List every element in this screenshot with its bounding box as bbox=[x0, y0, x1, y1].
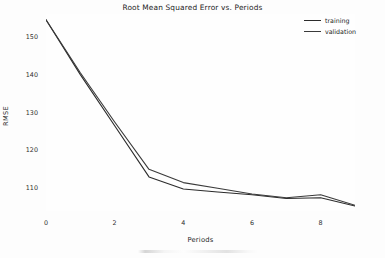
x-tick-6: 6 bbox=[250, 219, 254, 227]
legend-label-validation: validation bbox=[325, 26, 356, 37]
series-layer bbox=[46, 20, 355, 206]
legend-line-swatch-validation bbox=[304, 31, 321, 32]
x-axis-label: Periods bbox=[46, 236, 355, 244]
chart-figure: Root Mean Squared Error vs. Periods RMSE… bbox=[0, 0, 385, 258]
line-chart-svg bbox=[46, 14, 355, 211]
legend-entry-training: training bbox=[303, 15, 381, 26]
series-line-training bbox=[46, 20, 355, 206]
legend-label-training: training bbox=[325, 15, 349, 26]
x-tick-2: 2 bbox=[113, 219, 117, 227]
series-line-validation bbox=[46, 20, 355, 206]
chart-legend: training validation bbox=[303, 15, 381, 40]
legend-line-swatch-training bbox=[304, 20, 321, 21]
x-tick-8: 8 bbox=[319, 219, 323, 227]
legend-entry-validation: validation bbox=[303, 26, 381, 37]
scan-artifact bbox=[138, 250, 258, 253]
x-tick-4: 4 bbox=[181, 219, 185, 227]
x-tick-0: 0 bbox=[44, 219, 48, 227]
plot-area bbox=[46, 14, 355, 211]
